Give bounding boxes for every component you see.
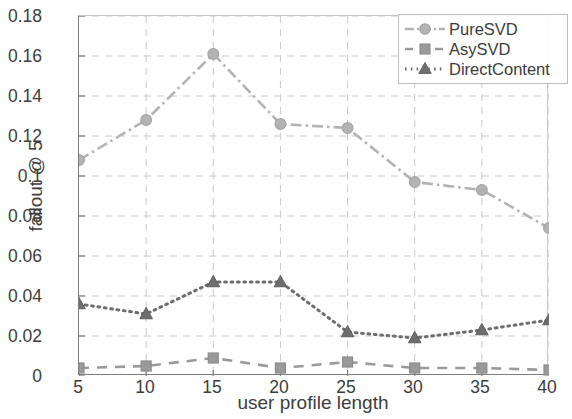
data-point-marker [341,325,354,336]
y-tick-label: 0.08 [0,208,42,226]
y-tick-label: 0.16 [0,48,42,66]
legend-label-asysvd: AsySVD [447,40,510,59]
data-point-marker [544,365,549,375]
data-point-marker [141,115,152,126]
y-tick-label: 0.18 [0,8,42,26]
x-axis-label: user profile length [78,392,548,414]
data-point-marker [477,363,487,373]
data-point-marker [476,185,487,196]
y-tick-label: 0.06 [0,248,42,266]
chart-figure: fallout @ 5 0.18 0.16 0.14 0.12 0.1 0.08… [0,0,572,419]
data-point-marker [543,313,549,324]
legend-label-puresvd: PureSVD [447,20,518,39]
y-tick-label: 0.04 [0,288,42,306]
legend-swatch-triangle-icon [403,59,447,79]
y-tick-label: 0.12 [0,128,42,146]
data-point-marker [141,361,151,371]
data-point-marker [275,363,285,373]
chart-legend: PureSVD AsySVD DirectContent [398,14,568,84]
data-point-marker [79,363,84,373]
data-point-marker [342,123,353,134]
legend-swatch-circle-icon [403,19,447,39]
legend-item-puresvd[interactable]: PureSVD [403,19,563,39]
series-directcontent [79,275,549,342]
legend-item-directcontent[interactable]: DirectContent [403,59,563,79]
data-point-marker [343,357,353,367]
y-tick-label: 0.1 [0,168,42,186]
y-tick-label: 0.02 [0,328,42,346]
data-point-marker [208,353,218,363]
data-point-marker [79,297,85,308]
series-asysvd [79,353,549,375]
data-point-marker [79,155,84,166]
legend-label-directcontent: DirectContent [447,60,550,79]
y-tick-label: 0.14 [0,88,42,106]
legend-item-asysvd[interactable]: AsySVD [403,39,563,59]
data-point-marker [409,177,420,188]
y-tick-label: 0 [0,368,42,386]
data-point-marker [208,49,219,60]
legend-swatch-square-icon [403,39,447,59]
data-point-marker [275,119,286,130]
data-point-marker [544,223,549,234]
data-series-layer [79,49,549,375]
data-point-marker [410,363,420,373]
